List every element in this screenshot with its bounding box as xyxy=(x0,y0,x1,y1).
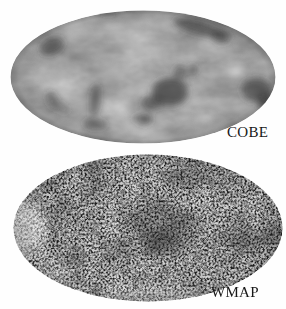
wmap-map-body xyxy=(13,154,283,302)
cobe-label: COBE xyxy=(227,124,268,141)
wmap-limb-shading xyxy=(14,155,283,302)
cmb-maps-figure: COBE xyxy=(0,0,286,309)
wmap-label: WMAP xyxy=(211,284,259,301)
wmap-map xyxy=(13,154,283,302)
